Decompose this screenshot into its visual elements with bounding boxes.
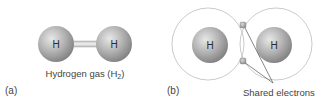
callout-line-bottom	[244, 62, 273, 83]
atom-label-right: H	[270, 40, 277, 51]
panel-a: H H Hydrogen gas (H2) (a)	[5, 26, 132, 96]
panel-b: H H Shared electrons (b)	[167, 8, 315, 98]
atom-label-left: H	[52, 39, 59, 50]
atom-label-left: H	[206, 40, 213, 51]
caption-text: Hydrogen gas (H	[46, 68, 118, 79]
hydrogen-molecule-diagram: H H Hydrogen gas (H2) (a) H H Shared ele…	[0, 0, 327, 109]
shared-electrons-label: Shared electrons	[243, 87, 315, 98]
shared-electron-top	[240, 22, 246, 28]
shared-electron-bottom	[240, 58, 246, 64]
panel-label-b: (b)	[167, 85, 179, 96]
panel-label-a: (a)	[5, 85, 17, 96]
bond	[70, 41, 100, 47]
caption-end: )	[121, 68, 124, 79]
atom-label-right: H	[110, 39, 117, 50]
caption-hydrogen-gas: Hydrogen gas (H2)	[46, 68, 125, 80]
